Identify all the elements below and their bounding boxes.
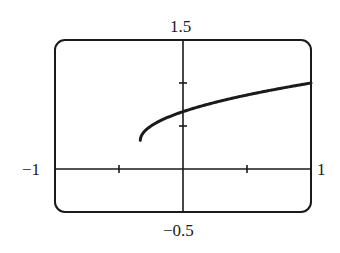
- chart-plot: [0, 0, 340, 253]
- data-curve: [140, 83, 311, 140]
- x-max-label: 1: [317, 161, 326, 178]
- y-max-label: 1.5: [170, 18, 191, 35]
- y-min-label: −0.5: [163, 222, 194, 239]
- x-min-label: −1: [22, 161, 40, 178]
